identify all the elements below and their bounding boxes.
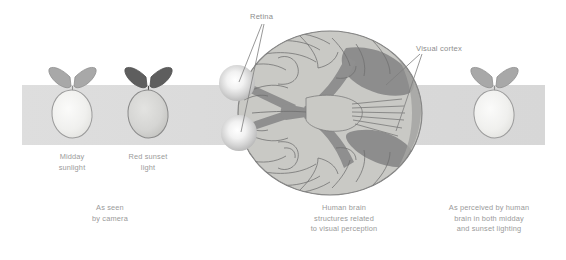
figure-root: Retina Visual cortex Midday sunlight Red… (0, 0, 566, 260)
caption-as-perceived-by-human-brain: As perceived by human brain in both midd… (419, 203, 559, 235)
caption-midday-sunlight: Midday sunlight (32, 152, 112, 173)
eyeball-upper (219, 65, 255, 101)
visual-cortex-label: Visual cortex (416, 44, 462, 53)
leaf-right (150, 67, 172, 87)
eyeball-lower (221, 115, 257, 151)
leaf-left (471, 67, 493, 87)
caption-as-seen-by-camera: As seen by camera (60, 203, 160, 224)
caption-red-sunset-light: Red sunset light (108, 152, 188, 173)
retina-label: Retina (250, 12, 273, 21)
leaf-left (49, 67, 71, 87)
brainstem (306, 95, 362, 131)
leaf-right (496, 67, 518, 87)
leaf-right (74, 67, 96, 87)
leaf-left (125, 67, 147, 87)
caption-human-brain-structures: Human brain structures related to visual… (284, 203, 404, 235)
